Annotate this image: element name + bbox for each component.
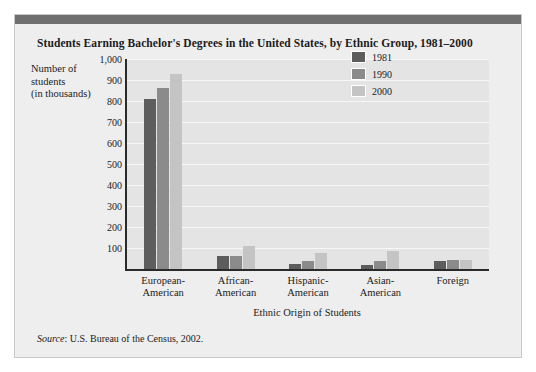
figure-top-bar [15, 15, 521, 24]
bar-european-american-1990 [157, 88, 169, 269]
bar-african-american-2000 [243, 246, 255, 269]
bar-african-american-1990 [230, 256, 242, 269]
x-axis-category-label-line: Hispanic- [287, 275, 328, 287]
x-axis-category-label-line: American [215, 287, 256, 299]
x-axis-category-label-line: Foreign [436, 275, 469, 287]
x-axis-category-label: Hispanic-American [287, 275, 328, 299]
y-axis-tick-label: 900 [107, 75, 122, 86]
bar-foreign-1990 [447, 260, 459, 269]
bar-asian-american-1981 [361, 265, 373, 269]
y-axis-tick-label: 300 [107, 201, 122, 212]
bar-group: African-American [199, 59, 271, 269]
x-axis-category-label-line: African- [215, 275, 256, 287]
y-axis-tick-label: 1,000 [100, 54, 123, 65]
bar-european-american-1981 [144, 99, 156, 269]
legend-item-2000[interactable]: 2000 [351, 85, 392, 97]
bar-hispanic-american-2000 [315, 253, 327, 269]
y-axis-tick-label: 200 [107, 222, 122, 233]
bar-hispanic-american-1990 [302, 261, 314, 269]
x-axis-category-label-line: American [360, 287, 401, 299]
legend-label: 1981 [372, 52, 392, 63]
legend-label: 1990 [372, 69, 392, 80]
x-axis-category-label: Foreign [436, 275, 469, 287]
y-axis-tick-label: 700 [107, 117, 122, 128]
bar-foreign-2000 [460, 260, 472, 269]
x-axis-category-label: European-American [141, 275, 185, 299]
plot-area: 1,000900800700600500400300200100European… [125, 59, 489, 271]
legend-swatch-icon [351, 68, 366, 80]
bar-group: European-American [127, 59, 199, 269]
y-axis-tick-label: 600 [107, 138, 122, 149]
bar-foreign-1981 [434, 261, 446, 269]
bar-hispanic-american-1981 [289, 264, 301, 269]
x-axis-category-label: Asian-American [360, 275, 401, 299]
bar-group: Foreign [417, 59, 489, 269]
legend-label: 2000 [372, 86, 392, 97]
bar-european-american-2000 [170, 74, 182, 269]
bar-asian-american-2000 [387, 251, 399, 269]
bar-group: Hispanic-American [272, 59, 344, 269]
x-axis-category-label-line: American [141, 287, 185, 299]
chart-legend: 198119902000 [351, 51, 392, 102]
x-axis-category-label-line: European- [141, 275, 185, 287]
y-axis-tick-label: 800 [107, 96, 122, 107]
legend-swatch-icon [351, 85, 366, 97]
legend-item-1990[interactable]: 1990 [351, 68, 392, 80]
y-axis-tick-label: 400 [107, 180, 122, 191]
x-axis-category-label: African-American [215, 275, 256, 299]
y-axis-tick-label: 500 [107, 159, 122, 170]
legend-item-1981[interactable]: 1981 [351, 51, 392, 63]
x-axis-category-label-line: American [287, 287, 328, 299]
bar-african-american-1981 [217, 256, 229, 269]
source-label: Source [37, 333, 64, 344]
bar-asian-american-1990 [374, 261, 386, 269]
chart-title: Students Earning Bachelor's Degrees in t… [37, 37, 507, 49]
y-axis-tick-label: 100 [107, 243, 122, 254]
source-text: : U.S. Bureau of the Census, 2002. [64, 333, 203, 344]
x-axis-category-label-line: Asian- [360, 275, 401, 287]
legend-swatch-icon [351, 51, 366, 63]
figure-panel: Students Earning Bachelor's Degrees in t… [14, 14, 522, 358]
source-note: Source: U.S. Bureau of the Census, 2002. [37, 333, 203, 344]
x-axis-title: Ethnic Origin of Students [125, 307, 489, 318]
